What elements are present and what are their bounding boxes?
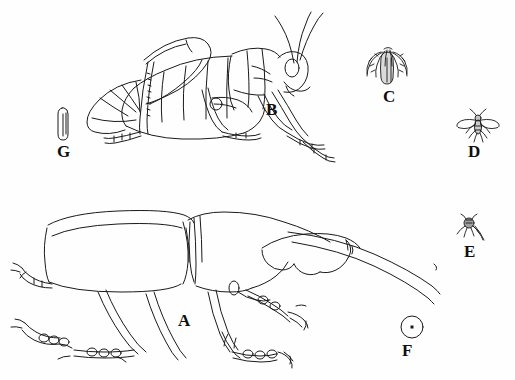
specimen-d-drawing [457,109,499,142]
specimen-label-e: E [464,243,476,260]
insect-plate: A B C D E F G [0,0,515,380]
specimen-a-drawing [11,211,440,369]
specimen-label-b: B [266,101,278,118]
specimen-g-drawing [58,108,68,140]
specimen-label-f: F [402,342,413,359]
specimen-label-c: C [383,88,396,105]
specimen-c-drawing [367,48,408,85]
specimen-label-d: D [468,143,481,160]
specimen-f-drawing [401,316,423,338]
specimen-label-a: A [178,312,191,329]
illustration-canvas [0,0,515,380]
specimen-label-g: G [57,143,71,160]
specimen-b-drawing [87,12,335,162]
specimen-e-drawing [457,214,484,240]
